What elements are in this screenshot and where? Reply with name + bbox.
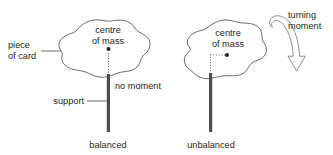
centre-of-mass-label-right-line1: centre xyxy=(215,28,241,38)
centre-of-mass-label-left-line2: of mass xyxy=(92,36,125,46)
centre-of-mass-dot-right xyxy=(225,53,229,57)
support-post-right xyxy=(209,73,212,132)
no-moment-label: no moment xyxy=(115,81,161,91)
balanced-caption: balanced xyxy=(89,140,126,150)
support-label: support xyxy=(53,96,84,106)
centre-of-mass-label-right-line2: of mass xyxy=(212,39,245,49)
turning-moment-label-line2: moment xyxy=(288,21,322,31)
centre-of-mass-dot-left xyxy=(107,47,111,51)
turning-moment-label-line1: turning xyxy=(288,10,316,20)
left-panel-balanced: piece of card centre of mass support no … xyxy=(8,20,161,150)
piece-of-card-label-line2: of card xyxy=(8,51,36,61)
unbalanced-caption: unbalanced xyxy=(187,140,235,150)
support-post-left xyxy=(107,74,110,132)
right-panel-unbalanced: centre of mass turning moment unbalanced xyxy=(184,10,321,150)
diagram-canvas: piece of card centre of mass support no … xyxy=(0,0,333,155)
centre-of-mass-label-left-line1: centre xyxy=(95,25,121,35)
piece-of-card-label-line1: piece xyxy=(8,40,30,50)
physics-diagram: piece of card centre of mass support no … xyxy=(0,0,333,155)
